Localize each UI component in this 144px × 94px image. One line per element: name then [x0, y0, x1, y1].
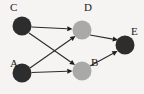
- graph-canvas: CDABE: [0, 0, 144, 94]
- node-label-b: B: [91, 56, 98, 68]
- graph-node-c[interactable]: [13, 17, 32, 36]
- node-label-d: D: [84, 1, 92, 13]
- graph-node-b[interactable]: [73, 62, 92, 81]
- node-label-a: A: [10, 57, 18, 69]
- node-label-e: E: [131, 25, 138, 37]
- node-label-c: C: [10, 1, 17, 13]
- graph-figure: CDABE: [0, 0, 144, 94]
- graph-node-e[interactable]: [116, 36, 135, 55]
- graph-node-d[interactable]: [73, 21, 92, 40]
